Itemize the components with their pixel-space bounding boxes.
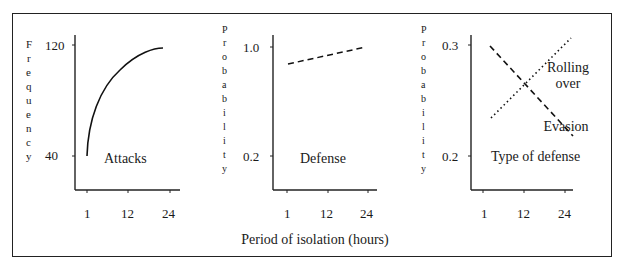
ylabel-letter: i bbox=[223, 135, 226, 146]
xtick-label: 24 bbox=[162, 206, 176, 221]
panel-defense: P r o b a b i l i t y 1.0 0.2 1 12 24 De… bbox=[222, 24, 377, 221]
ylabel-letter: t bbox=[422, 149, 425, 160]
ylabel-letter: u bbox=[26, 94, 32, 106]
figure-panels: F r e q u e n c y 120 40 1 12 24 Attacks… bbox=[0, 0, 630, 270]
defense-dashed-line bbox=[288, 47, 366, 64]
ylabel-letter: b bbox=[222, 93, 227, 104]
ylabel-letter: r bbox=[223, 37, 227, 48]
xtick-label: 12 bbox=[320, 206, 333, 221]
ylabel-letter: o bbox=[421, 51, 426, 62]
ylabel-letter: a bbox=[421, 79, 426, 90]
ytick-label: 0.2 bbox=[442, 149, 458, 164]
series-label-evasion: Evasion bbox=[543, 119, 588, 134]
series-label-rolling: Rolling bbox=[547, 60, 589, 75]
xtick-label: 24 bbox=[360, 206, 374, 221]
ylabel-letter: q bbox=[26, 80, 32, 92]
ylabel-letter: F bbox=[26, 38, 32, 50]
ylabel-letter: a bbox=[222, 79, 227, 90]
ylabel-letter: e bbox=[26, 66, 31, 78]
ylabel-letter: r bbox=[422, 37, 426, 48]
ylabel-probability: P r o b a b i l i t y bbox=[222, 24, 228, 174]
ylabel-letter: o bbox=[222, 51, 227, 62]
ytick-label: 0.2 bbox=[243, 149, 259, 164]
ylabel-letter: i bbox=[223, 107, 226, 118]
series-label-over: over bbox=[556, 76, 581, 91]
ytick-label: 120 bbox=[45, 38, 65, 53]
ylabel-letter: b bbox=[421, 65, 426, 76]
ylabel-letter: i bbox=[422, 135, 425, 146]
shared-x-axis-label: Period of isolation (hours) bbox=[0, 232, 630, 248]
ylabel-letter: y bbox=[421, 163, 426, 174]
ytick-label: 1.0 bbox=[243, 40, 259, 55]
ylabel-letter: P bbox=[222, 24, 228, 35]
ylabel-probability: P r o b a b i l i t y bbox=[421, 24, 427, 174]
ytick-label: 40 bbox=[45, 148, 58, 163]
ylabel-letter: r bbox=[27, 52, 31, 64]
xtick-label: 24 bbox=[558, 206, 572, 221]
ylabel-letter: y bbox=[222, 163, 227, 174]
panel-type-of-defense: P r o b a b i l i t y 0.3 0.2 1 12 24 Ro… bbox=[421, 24, 589, 221]
ylabel-letter: t bbox=[223, 149, 226, 160]
ylabel-frequency: F r e q u e n c y bbox=[26, 38, 32, 162]
panel-annotation: Attacks bbox=[104, 151, 147, 166]
panel-annotation: Defense bbox=[300, 151, 346, 166]
ytick-label: 0.3 bbox=[442, 38, 458, 53]
xtick-label: 1 bbox=[481, 206, 488, 221]
panel-attacks: F r e q u e n c y 120 40 1 12 24 Attacks bbox=[26, 35, 180, 221]
xtick-label: 12 bbox=[517, 206, 530, 221]
ylabel-letter: i bbox=[422, 107, 425, 118]
xtick-label: 1 bbox=[284, 206, 291, 221]
ylabel-letter: l bbox=[422, 121, 425, 132]
ylabel-letter: b bbox=[222, 65, 227, 76]
xtick-label: 1 bbox=[84, 206, 91, 221]
ylabel-letter: e bbox=[26, 108, 31, 120]
ylabel-letter: c bbox=[26, 136, 31, 148]
attacks-curve bbox=[87, 48, 163, 156]
ylabel-letter: b bbox=[421, 93, 426, 104]
ylabel-letter: P bbox=[421, 24, 427, 35]
xtick-label: 12 bbox=[121, 206, 134, 221]
ylabel-letter: y bbox=[26, 150, 32, 162]
panel-annotation: Type of defense bbox=[491, 149, 580, 164]
ylabel-letter: n bbox=[26, 122, 32, 134]
ylabel-letter: l bbox=[223, 121, 226, 132]
